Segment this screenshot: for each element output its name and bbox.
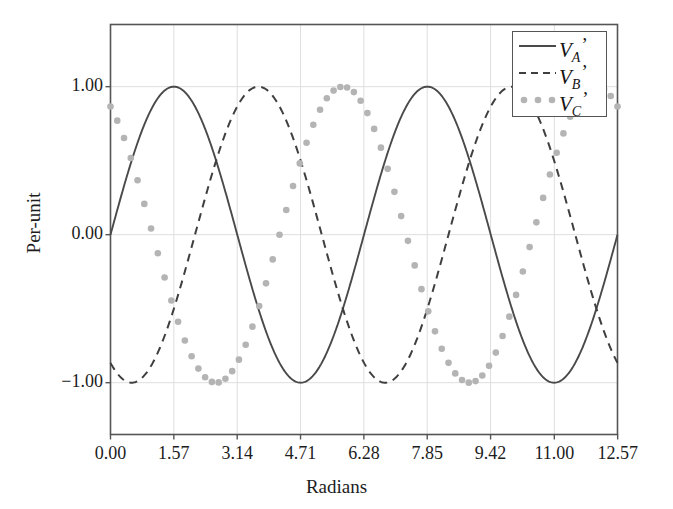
xtick-label: 4.71 bbox=[271, 443, 331, 464]
legend-symbol-prime: ’ bbox=[581, 61, 587, 82]
y-axis-label: Per-unit bbox=[23, 163, 45, 283]
legend-symbol-base: V bbox=[559, 38, 572, 62]
x-axis-label: Radians bbox=[0, 476, 673, 498]
legend-label-vc: VC’ bbox=[559, 88, 589, 120]
legend-symbol-base: V bbox=[559, 65, 572, 89]
axis-tickmarks bbox=[106, 87, 618, 440]
ytick-label-1: 1.00 bbox=[33, 75, 103, 96]
xtick-label: 3.14 bbox=[207, 443, 267, 464]
legend-symbol-subscript: C bbox=[572, 104, 581, 119]
legend-symbol-prime: ’ bbox=[582, 88, 588, 109]
xtick-label: 0.00 bbox=[81, 443, 141, 464]
xtick-label: 7.85 bbox=[397, 443, 457, 464]
xtick-label: 12.57 bbox=[588, 443, 648, 464]
xtick-label: 1.57 bbox=[144, 443, 204, 464]
xtick-label: 6.28 bbox=[334, 443, 394, 464]
legend-symbol-base: V bbox=[559, 92, 572, 116]
ytick-label-3: −1.00 bbox=[33, 371, 103, 392]
xtick-label: 11.00 bbox=[524, 443, 584, 464]
chart-figure: 1.00 0.00 −1.00 0.001.573.144.716.287.85… bbox=[0, 0, 673, 509]
legend-symbol-prime: ’ bbox=[581, 34, 587, 55]
xtick-label: 9.42 bbox=[461, 443, 521, 464]
